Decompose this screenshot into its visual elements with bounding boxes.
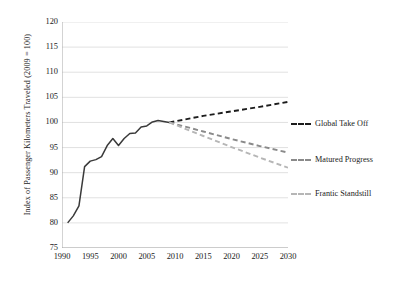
chart-legend: Global Take OffMatured ProgressFrantic S… — [291, 0, 394, 283]
legend-swatch-dashed-line — [291, 159, 311, 161]
x-axis-tick-label: 1990 — [54, 253, 71, 261]
x-axis-tick-label: 2025 — [251, 253, 268, 261]
series-line — [169, 122, 288, 152]
plot-svg — [62, 22, 288, 248]
y-axis-tick-label: 120 — [45, 18, 58, 26]
legend-label: Frantic Standstill — [315, 190, 371, 198]
x-axis-tick-label: 1995 — [82, 253, 99, 261]
y-axis-tick-label: 85 — [50, 194, 58, 202]
series-line — [68, 120, 170, 222]
y-axis-tick-label: 90 — [50, 168, 58, 176]
x-axis-tick-label: 2015 — [195, 253, 212, 261]
y-axis-tick-label: 75 — [50, 244, 58, 252]
y-axis-tick-label: 80 — [50, 219, 58, 227]
legend-label: Global Take Off — [315, 120, 368, 128]
legend-item[interactable]: Matured Progress — [291, 156, 373, 164]
legend-item[interactable]: Global Take Off — [291, 120, 368, 128]
y-axis-title: Index of Passenger Kilometers Traveled (… — [23, 10, 32, 240]
y-axis-tick-label: 110 — [46, 68, 58, 76]
legend-swatch-dashed-line — [291, 193, 311, 195]
x-axis-tick-label: 2000 — [110, 253, 127, 261]
y-axis-tick-label: 115 — [46, 43, 58, 51]
plot-area: 7580859095100105110115120199019952000200… — [62, 22, 288, 248]
x-axis-tick-label: 2020 — [223, 253, 240, 261]
x-axis-tick-label: 2005 — [138, 253, 155, 261]
x-axis-tick-label: 2010 — [167, 253, 184, 261]
legend-label: Matured Progress — [315, 156, 373, 164]
y-axis-tick-label: 105 — [45, 93, 58, 101]
y-axis-tick-label: 100 — [45, 118, 58, 126]
series-line — [169, 102, 288, 123]
y-axis-tick-label: 95 — [50, 143, 58, 151]
chart-container: Index of Passenger Kilometers Traveled (… — [0, 0, 394, 283]
legend-swatch-dashed-line — [291, 123, 311, 125]
legend-item[interactable]: Frantic Standstill — [291, 190, 371, 198]
series-line — [169, 122, 288, 167]
